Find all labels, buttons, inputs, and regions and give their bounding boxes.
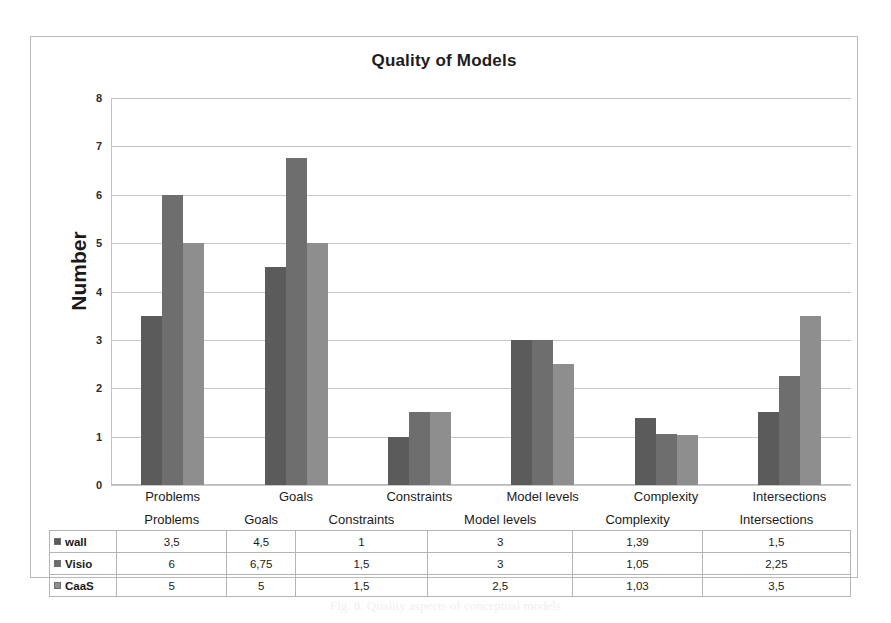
x-axis-label: Intersections bbox=[728, 489, 851, 504]
bar bbox=[265, 267, 286, 485]
x-axis-label: Model levels bbox=[481, 489, 604, 504]
table-column-header: Model levels bbox=[428, 509, 573, 531]
table-cell-value: 1,03 bbox=[573, 575, 702, 597]
bar bbox=[800, 316, 821, 485]
series-name: wall bbox=[65, 536, 87, 548]
table-cell-value: 2,5 bbox=[428, 575, 573, 597]
table-cell-value: 1,5 bbox=[295, 553, 427, 575]
table-column-header: Constraints bbox=[295, 509, 427, 531]
bar bbox=[532, 340, 553, 485]
table-cell-value: 3,5 bbox=[702, 575, 850, 597]
bar bbox=[677, 435, 698, 485]
chart-title: Quality of Models bbox=[31, 51, 857, 71]
legend-entry: CaaS bbox=[50, 575, 117, 597]
bar bbox=[388, 437, 409, 485]
y-tick-label: 1 bbox=[96, 431, 102, 443]
table-column-header: Complexity bbox=[573, 509, 702, 531]
figure-frame: Quality of Models Number 012345678 Probl… bbox=[30, 36, 858, 578]
y-tick-label: 6 bbox=[96, 189, 102, 201]
bar-group bbox=[265, 98, 328, 485]
y-axis-title: Number bbox=[67, 201, 91, 341]
series-name: Visio bbox=[65, 558, 92, 570]
bar bbox=[141, 316, 162, 485]
bar bbox=[409, 412, 430, 485]
legend-entry: wall bbox=[50, 531, 117, 553]
gridline bbox=[111, 485, 851, 486]
bar-group bbox=[635, 98, 698, 485]
bar-group bbox=[511, 98, 574, 485]
table-row: wall3,54,5131,391,5 bbox=[50, 531, 851, 553]
x-axis-label: Goals bbox=[234, 489, 357, 504]
y-tick-label: 0 bbox=[96, 479, 102, 491]
table-cell-value: 3 bbox=[428, 553, 573, 575]
table-cell-value: 3,5 bbox=[117, 531, 227, 553]
y-tick-label: 2 bbox=[96, 382, 102, 394]
y-tick-label: 8 bbox=[96, 92, 102, 104]
legend-swatch-icon bbox=[54, 538, 61, 545]
plot-area: 012345678 bbox=[111, 98, 851, 485]
table-cell-value: 5 bbox=[117, 575, 227, 597]
bar bbox=[162, 195, 183, 485]
bar bbox=[758, 412, 779, 485]
y-tick-label: 7 bbox=[96, 140, 102, 152]
table-cell-value: 5 bbox=[227, 575, 295, 597]
bar bbox=[430, 412, 451, 485]
table-cell-value: 4,5 bbox=[227, 531, 295, 553]
table-header-row: ProblemsGoalsConstraintsModel levelsComp… bbox=[50, 509, 851, 531]
table-cell-value: 6,75 bbox=[227, 553, 295, 575]
table-cell-value: 1,39 bbox=[573, 531, 702, 553]
bar bbox=[511, 340, 532, 485]
x-axis-label: Problems bbox=[111, 489, 234, 504]
legend-entry: Visio bbox=[50, 553, 117, 575]
series-name: CaaS bbox=[65, 580, 94, 592]
bar bbox=[779, 376, 800, 485]
bars-layer bbox=[111, 98, 851, 485]
bar-group bbox=[141, 98, 204, 485]
table-column-header: Intersections bbox=[702, 509, 850, 531]
table-column-header: Goals bbox=[227, 509, 295, 531]
x-axis-label: Complexity bbox=[604, 489, 727, 504]
table-cell-value: 1,5 bbox=[702, 531, 850, 553]
bar bbox=[635, 418, 656, 485]
bar bbox=[183, 243, 204, 485]
bar-group bbox=[758, 98, 821, 485]
data-table: ProblemsGoalsConstraintsModel levelsComp… bbox=[49, 509, 851, 597]
table-row: CaaS551,52,51,033,5 bbox=[50, 575, 851, 597]
x-axis-label: Constraints bbox=[358, 489, 481, 504]
table-cell-value: 6 bbox=[117, 553, 227, 575]
legend-swatch-icon bbox=[54, 560, 61, 567]
table-cell-value: 3 bbox=[428, 531, 573, 553]
table-column-header: Problems bbox=[117, 509, 227, 531]
table-row: Visio66,751,531,052,25 bbox=[50, 553, 851, 575]
y-tick-label: 4 bbox=[96, 286, 102, 298]
legend-swatch-icon bbox=[54, 582, 61, 589]
y-tick-label: 3 bbox=[96, 334, 102, 346]
figure-caption: Fig. 8. Quality aspects of conceptual mo… bbox=[0, 598, 891, 614]
y-tick-label: 5 bbox=[96, 237, 102, 249]
bar bbox=[286, 158, 307, 485]
bar-group bbox=[388, 98, 451, 485]
x-axis-labels: ProblemsGoalsConstraintsModel levelsComp… bbox=[111, 489, 851, 511]
table-cell-value: 1 bbox=[295, 531, 427, 553]
bar bbox=[307, 243, 328, 485]
bar bbox=[656, 434, 677, 485]
table-cell-value: 1,05 bbox=[573, 553, 702, 575]
table-corner-cell bbox=[50, 509, 117, 531]
table-cell-value: 2,25 bbox=[702, 553, 850, 575]
bar bbox=[553, 364, 574, 485]
table-cell-value: 1,5 bbox=[295, 575, 427, 597]
